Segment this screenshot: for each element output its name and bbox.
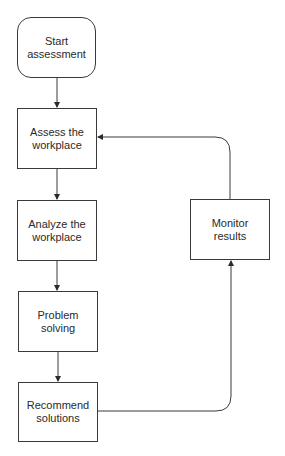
node-label: Monitor results xyxy=(195,217,265,243)
flowchart: Start assessment Assess the workplace An… xyxy=(0,0,285,456)
node-label: Analyze the workplace xyxy=(28,218,85,244)
node-assess-workplace: Assess the workplace xyxy=(17,108,97,169)
node-analyze-workplace: Analyze the workplace xyxy=(17,200,97,261)
node-start-assessment: Start assessment xyxy=(17,17,96,78)
node-problem-solving: Problem solving xyxy=(18,291,98,352)
node-label: Recommend solutions xyxy=(27,399,89,425)
node-label: Problem solving xyxy=(23,309,93,335)
node-label: Assess the workplace xyxy=(30,126,84,152)
node-monitor-results: Monitor results xyxy=(190,199,270,260)
node-label: Start assessment xyxy=(27,35,86,61)
edge-monitor-assess xyxy=(98,137,230,199)
node-recommend-solutions: Recommend solutions xyxy=(18,382,98,442)
edge-recommend-monitor xyxy=(98,261,231,411)
